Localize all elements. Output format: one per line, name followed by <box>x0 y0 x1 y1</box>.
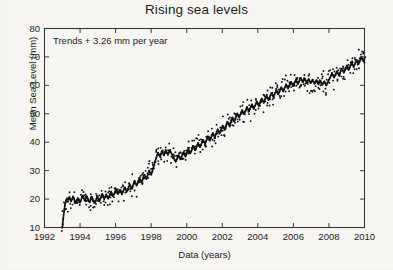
x-tick-label: 2008 <box>309 231 349 242</box>
x-tick-label: 2004 <box>238 231 278 242</box>
x-axis-tick-labels: 1992199419961998200020022004200620082010 <box>0 0 393 270</box>
x-tick-label: 2006 <box>273 231 313 242</box>
x-tick-label: 1998 <box>131 231 171 242</box>
x-tick-label: 1994 <box>60 231 100 242</box>
x-tick-label: 2002 <box>202 231 242 242</box>
chart-figure: Rising sea levels Trends + 3.26 mm per y… <box>0 0 393 270</box>
x-tick-label: 1996 <box>96 231 136 242</box>
x-tick-label: 2010 <box>345 231 385 242</box>
x-tick-label: 2000 <box>167 231 207 242</box>
x-tick-label: 1992 <box>25 231 65 242</box>
